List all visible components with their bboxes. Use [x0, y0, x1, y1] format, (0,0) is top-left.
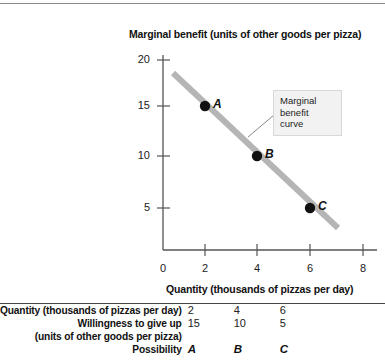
y-tick-label-20: 20: [128, 53, 150, 65]
y-tick-label-10: 10: [128, 149, 150, 161]
data-point-a[interactable]: [200, 101, 210, 111]
point-label-c: C: [318, 199, 327, 213]
x-tick-label-8: 8: [353, 262, 373, 274]
annotation-line-1: Marginal: [280, 95, 336, 107]
x-tick-label-2: 2: [195, 262, 215, 274]
y-tick-label-15: 15: [128, 99, 150, 111]
point-label-b: B: [265, 147, 274, 161]
table-spacer-cell: [325, 343, 385, 356]
cell-possibility-a: A: [188, 343, 234, 356]
cell-willingness-b: 10: [234, 317, 280, 343]
row-label-willingness-line1: Willingness to give up: [0, 317, 182, 330]
table-row: Willingness to give up (units of other g…: [0, 317, 385, 343]
cell-quantity-b: 4: [234, 304, 280, 318]
annotation-leader-line: [248, 115, 274, 137]
x-axis-title: Quantity (thousands of pizzas per day): [166, 283, 353, 295]
data-point-c[interactable]: [305, 203, 315, 213]
chart-plot-area: [0, 0, 385, 300]
annotation-line-2: benefit: [280, 107, 336, 119]
point-label-a: A: [213, 97, 222, 111]
cell-possibility-b: B: [234, 343, 280, 356]
table-spacer-cell: [325, 304, 385, 318]
cell-quantity-a: 2: [188, 304, 234, 318]
marginal-benefit-chart: Marginal benefit (units of other goods p…: [0, 0, 385, 300]
x-tick-label-0: 0: [153, 262, 173, 274]
data-point-b[interactable]: [252, 151, 262, 161]
cell-possibility-c: C: [280, 343, 325, 356]
annotation-line-3: curve: [280, 118, 336, 130]
table-spacer-cell: [325, 317, 385, 343]
row-label-possibility: Possibility: [0, 343, 188, 356]
cell-willingness-a: 15: [188, 317, 234, 343]
x-tick-label-6: 6: [300, 262, 320, 274]
row-label-quantity: Quantity (thousands of pizzas per day): [0, 304, 188, 318]
cell-willingness-c: 5: [280, 317, 325, 343]
marginal-benefit-curve-annotation: Marginal benefit curve: [273, 90, 342, 136]
row-label-willingness: Willingness to give up (units of other g…: [0, 317, 188, 343]
row-label-willingness-line2: (units of other goods per pizza): [0, 330, 182, 343]
possibilities-table: Quantity (thousands of pizzas per day) 2…: [0, 303, 385, 356]
table-row: Possibility A B C: [0, 343, 385, 356]
y-tick-label-5: 5: [128, 201, 150, 213]
table-row: Quantity (thousands of pizzas per day) 2…: [0, 304, 385, 318]
x-tick-label-4: 4: [247, 262, 267, 274]
cell-quantity-c: 6: [280, 304, 325, 318]
